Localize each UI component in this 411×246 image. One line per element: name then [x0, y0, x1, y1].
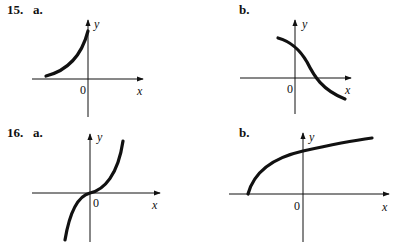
- x-label-16b: x: [382, 201, 387, 213]
- problem-16-number: 16.: [7, 126, 23, 139]
- y-label-16b: y: [309, 131, 314, 143]
- curve-15a: [46, 31, 88, 76]
- graph-15a: [32, 20, 143, 117]
- x-label-15b: x: [345, 84, 350, 96]
- graph-16b: [229, 133, 389, 242]
- problem-15b-label: b.: [239, 3, 249, 16]
- origin-label-16b: 0: [294, 200, 300, 212]
- problem-15-number: 15.: [7, 3, 23, 16]
- graph-15b: [240, 20, 351, 114]
- graph-16a: [32, 134, 160, 242]
- origin-label-15a: 0: [80, 84, 86, 96]
- origin-label-15b: 0: [287, 83, 293, 95]
- y-label-15b: y: [302, 18, 307, 30]
- problem-16b-label: b.: [239, 126, 249, 139]
- origin-label-16a: 0: [93, 197, 99, 209]
- problem-15a-label: a.: [33, 3, 43, 16]
- y-label-15a: y: [94, 18, 99, 30]
- figure-graphs: [0, 0, 411, 246]
- y-label-16a: y: [97, 131, 102, 143]
- problem-16a-label: a.: [33, 126, 43, 139]
- x-label-16a: x: [152, 199, 157, 211]
- x-label-15a: x: [137, 85, 142, 97]
- curve-16b: [248, 138, 372, 194]
- curve-16a: [65, 141, 123, 240]
